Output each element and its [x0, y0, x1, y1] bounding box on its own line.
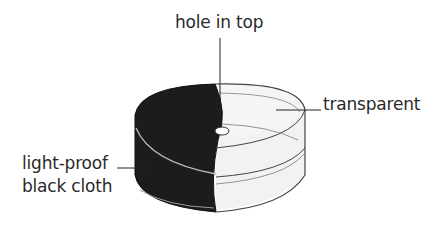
transparent-label: transparent [323, 93, 420, 116]
hole-icon [215, 127, 229, 135]
hole-in-top-label: hole in top [175, 11, 263, 34]
black-cloth-label-line2: black cloth [22, 175, 112, 198]
black-cloth [135, 84, 222, 212]
black-cloth-label: light-proof black cloth [22, 152, 112, 198]
petri-dish-diagram: hole in top transparent light-proof blac… [0, 0, 445, 228]
black-cloth-label-line1: light-proof [22, 152, 112, 175]
